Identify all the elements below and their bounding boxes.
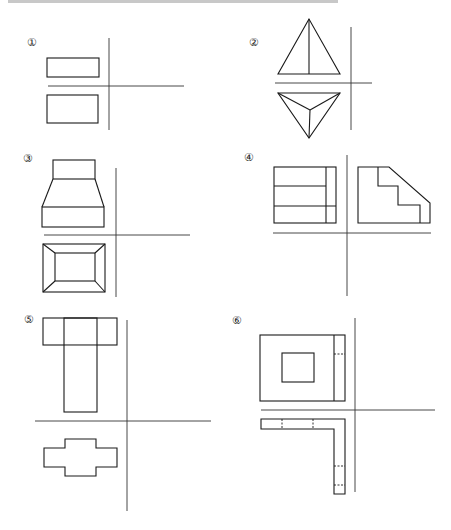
top-view-edge bbox=[310, 93, 340, 110]
front-view-stem bbox=[64, 318, 97, 412]
top-view-corner-edge bbox=[95, 244, 105, 253]
top-view-edge bbox=[309, 110, 310, 138]
three-view-drawing-sheet: ① ② ③ ④ bbox=[0, 0, 451, 530]
figure-6: ⑥ bbox=[232, 314, 435, 494]
top-view-corner-edge bbox=[95, 281, 105, 292]
figure-2-label: ② bbox=[249, 36, 259, 49]
side-view-outline bbox=[358, 167, 430, 223]
top-view-edge bbox=[278, 93, 310, 110]
figure-1: ① bbox=[27, 36, 184, 130]
figure-4-label: ④ bbox=[244, 151, 254, 164]
figure-5: ⑤ bbox=[24, 313, 211, 511]
figure-3-label: ③ bbox=[23, 152, 33, 165]
top-view-rect bbox=[47, 95, 98, 123]
front-view-taper-right bbox=[95, 179, 104, 207]
front-view-top-block bbox=[53, 160, 95, 179]
front-view-rect bbox=[274, 167, 336, 223]
figure-5-label: ⑤ bbox=[24, 313, 34, 326]
figure-3: ③ bbox=[23, 152, 190, 297]
top-view-corner-edge bbox=[43, 244, 55, 253]
front-view-outer bbox=[260, 335, 345, 401]
front-view-base-block bbox=[42, 207, 104, 227]
header-text-cutoff bbox=[8, 0, 338, 3]
figure-4: ④ bbox=[244, 151, 431, 296]
figure-2: ② bbox=[249, 19, 372, 138]
figure-1-label: ① bbox=[27, 36, 37, 49]
figure-6-label: ⑥ bbox=[232, 314, 242, 327]
front-view-rect bbox=[47, 58, 99, 77]
top-view-cross bbox=[44, 439, 117, 476]
front-view-taper-left bbox=[42, 179, 53, 207]
top-view-corner-edge bbox=[43, 281, 55, 292]
top-view-l-shape bbox=[261, 419, 345, 494]
top-view-inner bbox=[55, 253, 95, 281]
front-view-square-hole bbox=[282, 353, 314, 382]
front-view-top-bar bbox=[43, 318, 117, 345]
